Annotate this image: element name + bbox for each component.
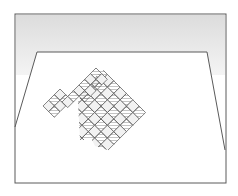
sketch-illustration: Pencil sketch of a torn checkerboard lyi… — [0, 0, 238, 196]
